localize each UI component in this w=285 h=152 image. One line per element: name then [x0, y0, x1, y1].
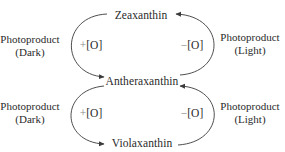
- oxygen-label: [O]: [187, 39, 203, 51]
- side-label-line2: (Dark): [0, 46, 59, 59]
- reaction-upper-right: −[O]: [181, 39, 203, 51]
- reaction-upper-left: +[O]: [80, 39, 102, 51]
- side-label-line1: Photoproduct: [220, 31, 279, 44]
- side-label-line1: Photoproduct: [220, 100, 279, 113]
- oxygen-label: [O]: [86, 107, 102, 119]
- side-label-line2: (Light): [220, 44, 279, 57]
- oxygen-label: [O]: [86, 39, 102, 51]
- side-label-upper-dark: Photoproduct (Dark): [0, 33, 59, 59]
- side-label-line1: Photoproduct: [0, 33, 59, 46]
- node-antheraxanthin: Antheraxanthin: [106, 75, 179, 87]
- side-label-lower-dark: Photoproduct (Dark): [0, 100, 59, 126]
- side-label-line2: (Dark): [0, 113, 59, 126]
- side-label-line1: Photoproduct: [0, 100, 59, 113]
- reaction-lower-right: −[O]: [181, 107, 203, 119]
- node-violaxanthin: Violaxanthin: [112, 137, 173, 149]
- xanthophyll-cycle-diagram: Zeaxanthin Antheraxanthin Violaxanthin +…: [0, 0, 285, 152]
- side-label-lower-light: Photoproduct (Light): [220, 100, 279, 126]
- node-zeaxanthin: Zeaxanthin: [115, 9, 168, 21]
- side-label-line2: (Light): [220, 113, 279, 126]
- oxygen-label: [O]: [187, 107, 203, 119]
- side-label-upper-light: Photoproduct (Light): [220, 31, 279, 57]
- reaction-lower-left: +[O]: [80, 107, 102, 119]
